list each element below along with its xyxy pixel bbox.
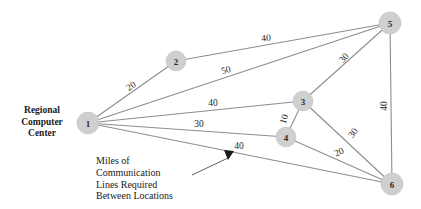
edge-weight-5-6: 40	[379, 101, 389, 111]
edge-1-2	[88, 61, 176, 123]
edge-weight-1-6: 40	[234, 141, 244, 151]
node-label-1: 1	[86, 119, 91, 129]
node-label-5: 5	[388, 19, 393, 29]
node-label-4: 4	[284, 133, 289, 143]
edge-weight-1-3: 40	[208, 98, 218, 108]
node-label-6: 6	[390, 180, 395, 190]
edge-weight-3-4: 10	[278, 113, 291, 125]
node-label-2: 2	[174, 57, 179, 67]
edge-weight-4-6: 20	[333, 145, 346, 158]
regional-computer-center-label: Regional Computer Center	[6, 105, 78, 140]
caption-pointer	[192, 150, 234, 175]
caption-line-3: Lines Required	[96, 179, 173, 191]
edge-weight-1-4: 30	[194, 119, 204, 129]
edge-3-6	[303, 101, 392, 184]
edge-4-6	[286, 137, 392, 184]
edge-weight-labels: 2040503040403010302040	[124, 32, 389, 158]
edge-1-4	[88, 123, 286, 137]
rcc-line-3: Center	[6, 128, 78, 140]
rcc-line-2: Computer	[6, 117, 78, 129]
edge-weight-2-5: 40	[261, 32, 272, 43]
edge-weight-1-2: 20	[124, 79, 138, 93]
caption-line-1: Miles of	[96, 155, 173, 167]
caption-line-2: Communication	[96, 167, 173, 179]
node-label-3: 3	[301, 97, 306, 107]
edge-weight-3-6: 30	[346, 126, 360, 140]
edge-weight-3-5: 30	[337, 51, 351, 65]
rcc-line-1: Regional	[6, 105, 78, 117]
legend-caption: Miles of Communication Lines Required Be…	[96, 155, 173, 202]
network-diagram-canvas: 123456 2040503040403010302040 Regional C…	[0, 0, 421, 209]
caption-line-4: Between Locations	[96, 190, 173, 202]
edge-weight-1-5: 50	[220, 64, 232, 76]
edge-5-6	[390, 23, 392, 184]
edge-2-5	[176, 23, 390, 61]
